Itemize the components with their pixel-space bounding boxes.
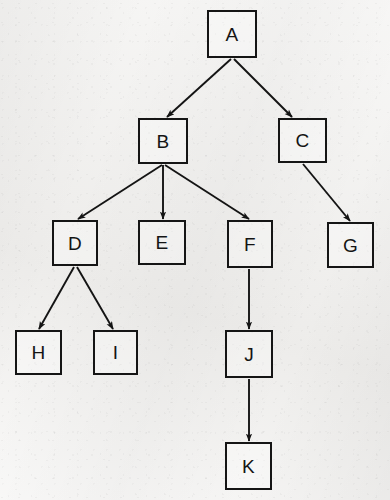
tree-node-g[interactable]: G xyxy=(327,222,374,268)
tree-node-a[interactable]: A xyxy=(207,10,257,58)
tree-node-c[interactable]: C xyxy=(278,118,327,163)
tree-node-d[interactable]: D xyxy=(52,220,98,266)
tree-node-label: E xyxy=(156,233,169,252)
tree-diagram-canvas: ABCDEFGHIJK xyxy=(0,0,390,500)
tree-edge-a-to-b xyxy=(167,59,231,117)
tree-edge-d-to-h xyxy=(39,267,74,329)
tree-node-label: G xyxy=(343,235,358,254)
tree-node-label: D xyxy=(68,233,82,252)
tree-node-h[interactable]: H xyxy=(15,330,62,375)
tree-node-j[interactable]: J xyxy=(225,330,273,378)
tree-node-label: H xyxy=(32,343,46,362)
tree-edge-b-to-f xyxy=(165,165,249,219)
tree-node-label: C xyxy=(296,131,310,150)
tree-edge-d-to-i xyxy=(77,267,113,329)
tree-edge-b-to-d xyxy=(78,165,162,219)
tree-node-k[interactable]: K xyxy=(225,442,272,490)
tree-node-label: K xyxy=(242,456,255,475)
tree-node-i[interactable]: I xyxy=(93,330,138,375)
tree-node-f[interactable]: F xyxy=(227,220,273,268)
tree-node-e[interactable]: E xyxy=(138,220,186,265)
tree-edge-a-to-c xyxy=(234,59,292,117)
tree-node-label: F xyxy=(244,234,256,253)
tree-node-label: J xyxy=(244,344,254,363)
tree-node-label: B xyxy=(157,131,170,150)
tree-node-label: A xyxy=(226,24,239,43)
tree-node-label: I xyxy=(113,343,118,362)
tree-edge-c-to-g xyxy=(303,164,350,221)
tree-node-b[interactable]: B xyxy=(138,118,188,164)
